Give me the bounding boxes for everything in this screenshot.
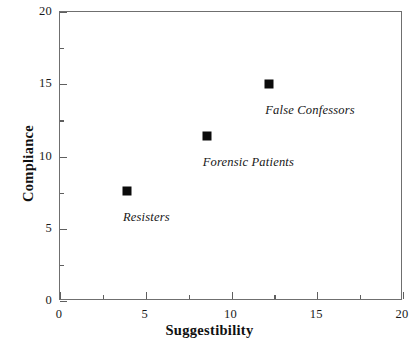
x-tick-minor bbox=[274, 295, 275, 299]
data-point-label: Resisters bbox=[123, 210, 170, 225]
x-tick-major bbox=[60, 292, 61, 299]
x-tick-major bbox=[232, 292, 233, 299]
data-point-label: Forensic Patients bbox=[203, 155, 294, 170]
y-tick-major bbox=[60, 157, 67, 158]
x-tick-label: 10 bbox=[224, 307, 237, 322]
x-axis-title: Suggestibility bbox=[0, 322, 419, 339]
y-tick-major bbox=[60, 84, 67, 85]
data-point-marker[interactable] bbox=[122, 187, 131, 196]
x-tick-label: 20 bbox=[396, 307, 409, 322]
x-tick-minor bbox=[189, 295, 190, 299]
y-tick-label: 20 bbox=[26, 4, 52, 19]
x-tick-major bbox=[317, 292, 318, 299]
y-axis-title: Compliance bbox=[20, 84, 37, 244]
y-tick-minor bbox=[60, 193, 64, 194]
x-tick-minor bbox=[360, 295, 361, 299]
y-tick-minor bbox=[60, 48, 64, 49]
y-tick-minor bbox=[60, 120, 64, 121]
plot-area-frame: ResistersForensic PatientsFalse Confesso… bbox=[59, 11, 402, 300]
x-tick-label: 15 bbox=[310, 307, 323, 322]
y-tick-major bbox=[60, 12, 67, 13]
x-tick-label: 0 bbox=[56, 307, 62, 322]
x-tick-label: 5 bbox=[142, 307, 148, 322]
y-tick-minor bbox=[60, 265, 64, 266]
y-tick-major bbox=[60, 229, 67, 230]
x-tick-major bbox=[403, 292, 404, 299]
y-tick-major bbox=[60, 301, 67, 302]
x-tick-minor bbox=[103, 295, 104, 299]
data-point-label: False Confessors bbox=[265, 103, 355, 118]
scatter-chart-figure: ResistersForensic PatientsFalse Confesso… bbox=[0, 0, 419, 344]
x-tick-major bbox=[146, 292, 147, 299]
data-point-marker[interactable] bbox=[265, 80, 274, 89]
data-point-marker[interactable] bbox=[202, 132, 211, 141]
y-tick-label: 0 bbox=[26, 293, 52, 308]
